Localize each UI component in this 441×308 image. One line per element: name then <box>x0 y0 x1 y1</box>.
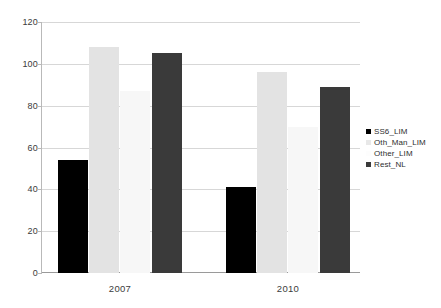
legend-item-rest-nl[interactable]: Rest_NL <box>366 159 440 170</box>
legend-item-ss6-lim[interactable]: SS6_LIM <box>366 126 440 137</box>
bar-2007-other-lim <box>120 91 150 273</box>
bar-2007-rest-nl <box>152 53 182 273</box>
bar-2010-rest-nl <box>320 87 350 273</box>
legend-label: Rest_NL <box>374 159 406 170</box>
legend-item-oth-man-lim[interactable]: Oth_Man_LIM <box>366 137 440 148</box>
legend-label: SS6_LIM <box>374 126 408 137</box>
y-tick-label: 120 <box>4 18 38 27</box>
y-tick-label: 80 <box>4 102 38 111</box>
legend-swatch-icon <box>366 151 371 156</box>
bar-2010-other-lim <box>288 127 318 273</box>
legend-label: Oth_Man_LIM <box>374 137 426 148</box>
bar-chart: 120 100 80 60 40 20 0 200 <box>0 0 441 308</box>
bar-2010-ss6-lim <box>226 187 256 273</box>
legend-label: Other_LIM <box>374 148 413 159</box>
y-tick-label: 20 <box>4 227 38 236</box>
bar-2010-oth-man-lim <box>257 72 287 273</box>
y-tick-label: 60 <box>4 144 38 153</box>
x-tick-label-2010: 2010 <box>268 283 308 294</box>
y-axis: 120 100 80 60 40 20 0 <box>0 22 38 273</box>
legend-swatch-icon <box>366 140 371 145</box>
bar-2007-ss6-lim <box>58 160 88 273</box>
legend-swatch-icon <box>366 129 371 134</box>
y-tick-label: 40 <box>4 185 38 194</box>
gridline-120 <box>42 22 360 23</box>
plot-area <box>42 22 360 273</box>
bar-2007-oth-man-lim <box>89 47 119 273</box>
y-tick-label: 0 <box>4 269 38 278</box>
legend-swatch-icon <box>366 162 371 167</box>
legend: SS6_LIM Oth_Man_LIM Other_LIM Rest_NL <box>366 126 440 170</box>
y-tick-label: 100 <box>4 60 38 69</box>
x-tick-label-2007: 2007 <box>100 283 140 294</box>
legend-item-other-lim[interactable]: Other_LIM <box>366 148 440 159</box>
